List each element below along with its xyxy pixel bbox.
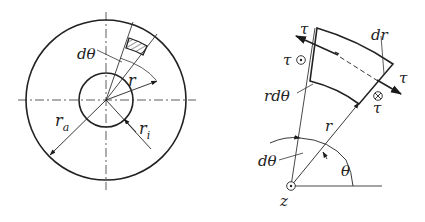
element-midline-dashed [340, 57, 378, 81]
label-r-left: r [128, 71, 137, 90]
label-dtheta-left: dθ [77, 45, 96, 63]
label-ri: ri [139, 119, 150, 142]
tau-top-arrow [296, 36, 338, 55]
dot-symbol-tau [297, 56, 306, 65]
theta-arc-arrow [323, 152, 327, 159]
r-arc [120, 58, 156, 80]
z-axis-origin [287, 182, 296, 191]
label-tau-bottom: τ [373, 99, 382, 117]
hatched-element [126, 38, 147, 55]
annulus-cross-section: dθ r ra ri [18, 12, 196, 190]
label-theta: θ [341, 162, 350, 180]
label-r-right: r [325, 117, 333, 135]
ri-arrow [124, 119, 136, 132]
label-tau-top: τ [300, 20, 309, 38]
stress-element-figure: τ τ dr τ τ rdθ r dθ θ z [258, 20, 408, 210]
dtheta-arc [270, 138, 300, 143]
label-ra: ra [55, 111, 69, 134]
label-dr: dr [371, 26, 389, 44]
tau-right-arrow [377, 80, 401, 94]
dtheta-leader [97, 50, 122, 62]
label-z: z [279, 192, 288, 210]
label-dtheta-right: dθ [258, 152, 277, 170]
label-rdtheta: rdθ [264, 87, 290, 105]
diagram-canvas: dθ r ra ri [0, 0, 425, 222]
label-tau-dot: τ [283, 51, 292, 69]
element-left-ray [291, 28, 315, 186]
dtheta-leader-right [279, 153, 303, 160]
label-tau-right: τ [399, 69, 408, 87]
